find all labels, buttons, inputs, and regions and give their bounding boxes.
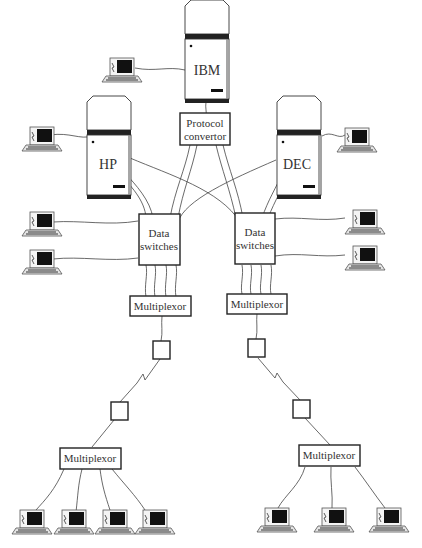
multiplexor-right-lower-label: Multiplexor — [303, 449, 356, 461]
terminal-icon — [102, 58, 142, 82]
mainframe-dec: DEC — [277, 96, 321, 199]
data-switch-right-line1: Data — [245, 226, 266, 238]
terminal-icon — [12, 510, 52, 534]
multiplexor-left-upper-label: Multiplexor — [134, 300, 187, 312]
multiplexor-right-lower: Multiplexor — [299, 445, 360, 466]
terminal-icon — [257, 508, 297, 532]
terminal-icon — [369, 508, 409, 532]
multiplexor-left-upper: Multiplexor — [130, 296, 191, 316]
multiplexor-left-lower: Multiplexor — [60, 448, 121, 469]
terminal-icon — [135, 510, 175, 534]
data-switch-left-line2: switches — [140, 240, 178, 252]
multiplexor-left-lower-label: Multiplexor — [64, 452, 117, 464]
mainframe-label-hp: HP — [99, 157, 117, 172]
terminal-icon — [345, 246, 385, 270]
data-switch-right-line2: switches — [236, 239, 274, 251]
terminal-icon — [337, 128, 377, 152]
modem-left-bottom — [111, 402, 128, 420]
network-diagram: IBM HP DEC Protocol convertor Data switc… — [0, 0, 422, 548]
terminal-icon — [54, 510, 94, 534]
mainframe-hp: HP — [87, 96, 131, 199]
terminal-icon — [314, 508, 354, 532]
modem-right-top — [248, 339, 265, 357]
terminal-icon — [95, 510, 135, 534]
modem-left-top — [153, 341, 170, 359]
terminal-icon — [22, 212, 62, 236]
protocol-convertor-line2: convertor — [184, 130, 226, 142]
protocol-convertor: Protocol convertor — [180, 113, 230, 145]
protocol-convertor-line1: Protocol — [186, 117, 223, 129]
mainframe-label-ibm: IBM — [194, 63, 221, 78]
terminal-icon — [22, 127, 62, 151]
modem-right-bottom — [293, 400, 310, 418]
data-switch-left: Data switches — [139, 214, 180, 265]
terminal-icon — [22, 250, 62, 274]
mainframe-ibm: IBM — [185, 0, 229, 103]
multiplexor-right-upper-label: Multiplexor — [231, 298, 284, 310]
multiplexor-right-upper: Multiplexor — [227, 294, 287, 314]
data-switch-right: Data switches — [235, 213, 275, 264]
mainframe-label-dec: DEC — [283, 157, 311, 172]
terminal-icon — [345, 210, 385, 234]
data-switch-left-line1: Data — [149, 227, 170, 239]
